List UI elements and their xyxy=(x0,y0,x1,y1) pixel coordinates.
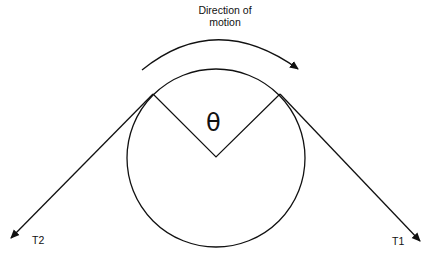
motion-label: Direction of motion xyxy=(180,4,270,28)
belt-right-segment xyxy=(280,94,420,241)
belt-left-segment xyxy=(11,94,153,238)
motion-label-line1: Direction of xyxy=(180,4,270,16)
tension-t1-label: T1 xyxy=(392,235,404,247)
motion-arrow xyxy=(142,40,298,70)
angle-label: θ xyxy=(206,109,221,137)
motion-label-line2: motion xyxy=(180,16,270,28)
tension-t2-label: T2 xyxy=(32,234,44,246)
